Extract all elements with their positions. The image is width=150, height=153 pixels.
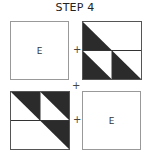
plus-sign-bottom: + xyxy=(73,114,81,125)
block-triangles-top-right xyxy=(82,21,143,81)
plus-sign-top: + xyxy=(73,44,81,55)
block-e-top-left: E xyxy=(10,21,70,81)
block-label: E xyxy=(37,46,43,56)
step-title: STEP 4 xyxy=(0,1,150,14)
block-e-bottom-right: E xyxy=(82,91,142,151)
block-triangles-bottom-left xyxy=(10,91,71,151)
block-label: E xyxy=(109,116,115,126)
plus-sign-middle: + xyxy=(72,80,80,91)
